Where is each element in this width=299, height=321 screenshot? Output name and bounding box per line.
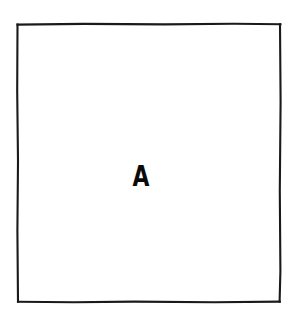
figure-canvas: A bbox=[0, 0, 299, 321]
region-label-a: A bbox=[133, 161, 149, 193]
